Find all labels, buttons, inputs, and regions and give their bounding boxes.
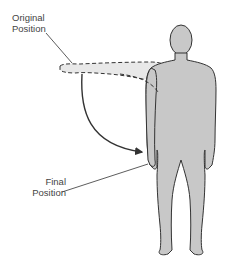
leader-line-final <box>62 164 148 192</box>
label-line: Original <box>12 12 46 23</box>
leader-line-original <box>46 33 72 63</box>
label-line: Final <box>24 176 66 187</box>
label-original-position: Original Position <box>12 12 46 34</box>
human-figure <box>146 25 216 255</box>
label-final-position: Final Position <box>24 176 66 198</box>
label-line: Position <box>12 23 46 34</box>
shoulder-adduction-diagram <box>0 0 229 264</box>
label-line: Position <box>24 187 66 198</box>
motion-arrow <box>82 74 142 152</box>
